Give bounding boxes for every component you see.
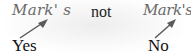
- no-arrow-icon: [155, 19, 176, 38]
- yes-arrow-icon: [20, 19, 48, 38]
- arrows-layer: [0, 0, 191, 55]
